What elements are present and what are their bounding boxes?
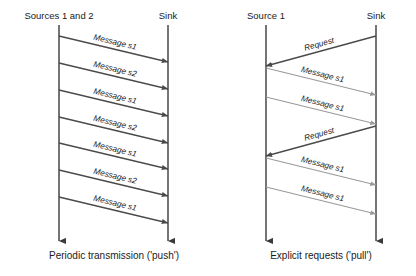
actor-label-sources: Sources 1 and 2	[24, 10, 93, 21]
actor-label-sink2: Sink	[367, 10, 386, 21]
panel-caption-push: Periodic transmission ('push')	[49, 250, 179, 261]
sequence-panel-push: Sources 1 and 2SinkMessage s1Message s2M…	[24, 10, 179, 261]
actor-label-sink: Sink	[159, 10, 178, 21]
message-label: Request	[303, 126, 335, 143]
diagram-canvas: Sources 1 and 2SinkMessage s1Message s2M…	[0, 0, 416, 276]
panel-caption-pull: Explicit requests ('pull')	[270, 250, 372, 261]
actor-label-source1: Source 1	[247, 10, 285, 21]
message-label: Request	[303, 36, 335, 53]
sequence-diagram-figure: Sources 1 and 2SinkMessage s1Message s2M…	[0, 0, 416, 276]
sequence-panel-pull: Source 1SinkRequestMessage s1Message s1R…	[247, 10, 386, 261]
